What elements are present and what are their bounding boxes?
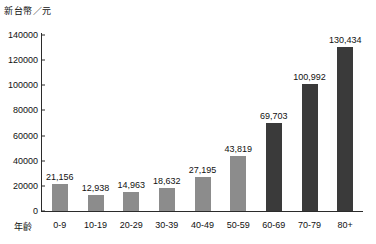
x-axis-tick-label: 80+	[338, 220, 353, 230]
bar-value-label: 12,938	[82, 183, 110, 193]
bar[interactable]: 12,938	[88, 195, 104, 211]
y-axis-tick-label: 120000	[8, 55, 42, 65]
x-axis-tick-label: 70-79	[298, 220, 321, 230]
bar-group[interactable]: 27,195	[195, 35, 211, 211]
bar[interactable]: 18,632	[159, 188, 175, 211]
bar-value-label: 69,703	[260, 111, 288, 121]
y-axis-tick-label: 100000	[8, 80, 42, 90]
bar-value-label: 43,819	[224, 144, 252, 154]
x-axis-tick-label: 50-59	[227, 220, 250, 230]
x-axis-title: 年齡	[14, 220, 32, 233]
bar[interactable]: 43,819	[230, 156, 246, 211]
x-axis-tick-label: 0-9	[53, 220, 66, 230]
bar-value-label: 27,195	[189, 165, 217, 175]
plot-area: 020000400006000080000100000120000140000 …	[42, 35, 363, 211]
x-axis-tick-label: 20-29	[120, 220, 143, 230]
bar-series: 21,15612,93814,96318,63227,19543,81969,7…	[42, 35, 363, 211]
bar-group[interactable]: 100,992	[302, 35, 318, 211]
y-axis-tick-label: 20000	[13, 181, 42, 191]
bar-group[interactable]: 69,703	[266, 35, 282, 211]
bar-group[interactable]: 12,938	[88, 35, 104, 211]
y-axis-tick-label: 40000	[13, 156, 42, 166]
bar-group[interactable]: 18,632	[159, 35, 175, 211]
bar-value-label: 100,992	[293, 72, 326, 82]
bar[interactable]: 130,434	[337, 47, 353, 211]
bar[interactable]: 100,992	[302, 84, 318, 211]
bar-value-label: 130,434	[329, 35, 362, 45]
y-axis-title: 新台幣／元	[4, 4, 52, 17]
x-axis-tick-label: 10-19	[84, 220, 107, 230]
bar[interactable]: 27,195	[195, 177, 211, 211]
bar-value-label: 18,632	[153, 176, 181, 186]
bar-group[interactable]: 14,963	[123, 35, 139, 211]
y-axis-tick-label: 60000	[13, 131, 42, 141]
bar-value-label: 21,156	[46, 172, 74, 182]
bar-group[interactable]: 43,819	[230, 35, 246, 211]
bar[interactable]: 14,963	[123, 192, 139, 211]
y-axis-tick-label: 140000	[8, 30, 42, 40]
x-axis-tick-label: 40-49	[191, 220, 214, 230]
bar[interactable]: 21,156	[52, 184, 68, 211]
x-axis-tick-label: 30-39	[155, 220, 178, 230]
x-axis-tick-label: 60-69	[262, 220, 285, 230]
bar[interactable]: 69,703	[266, 123, 282, 211]
bar-value-label: 14,963	[117, 180, 145, 190]
bar-group[interactable]: 130,434	[337, 35, 353, 211]
bar-group[interactable]: 21,156	[52, 35, 68, 211]
y-axis-tick-label: 80000	[13, 105, 42, 115]
x-axis-tick-labels: 0-910-1920-2930-3940-4950-5960-6970-7980…	[0, 215, 376, 235]
bar-chart: 新台幣／元 0200004000060000800001000001200001…	[0, 0, 376, 244]
